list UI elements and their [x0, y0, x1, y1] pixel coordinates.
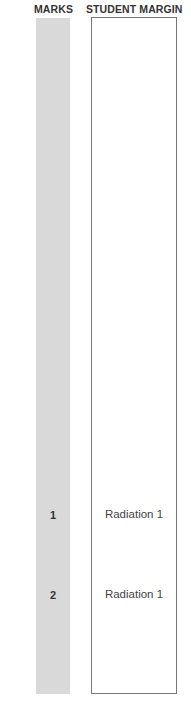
marks-header: MARKS [34, 3, 73, 15]
margin-note: Radiation 1 [91, 508, 177, 520]
mark-value: 1 [36, 509, 70, 521]
student-margin-header: STUDENT MARGIN [86, 3, 182, 15]
mark-value: 2 [36, 589, 70, 601]
margin-note: Radiation 1 [91, 588, 177, 600]
